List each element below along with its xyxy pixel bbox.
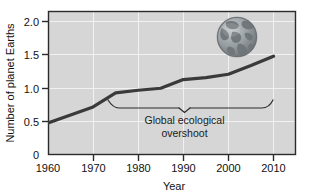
x-tick-label-2000: 2000	[216, 162, 240, 174]
earth-globe-icon	[217, 17, 258, 58]
x-tick-label-2010: 2010	[261, 162, 285, 174]
ecological-footprint-line-chart: 2.0 1.5 1.0 0.5 0 1960 1970 1980 1990 20…	[0, 0, 309, 196]
y-tick-label-2: 2.0	[24, 16, 39, 28]
x-tick-label-1960: 1960	[36, 162, 60, 174]
x-tick-label-1990: 1990	[171, 162, 195, 174]
overshoot-label-line2: overshoot	[161, 127, 207, 139]
y-axis-title: Number of planet Earths	[4, 23, 16, 143]
chart-figure: 2.0 1.5 1.0 0.5 0 1960 1970 1980 1990 20…	[0, 0, 309, 196]
y-tick-label-0: 0	[33, 149, 39, 161]
y-tick-label-1: 1.0	[24, 83, 39, 95]
x-tick-label-1980: 1980	[126, 162, 150, 174]
x-tick-label-1970: 1970	[81, 162, 105, 174]
x-axis-title: Year	[163, 180, 186, 192]
y-tick-label-1-5: 1.5	[24, 49, 39, 61]
overshoot-label-line1: Global ecological	[145, 114, 225, 126]
y-tick-label-0-5: 0.5	[24, 116, 39, 128]
